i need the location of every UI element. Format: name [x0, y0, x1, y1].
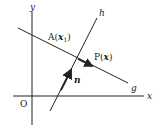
- origin-label: O: [20, 99, 27, 109]
- direction-arrow-icon: [78, 59, 92, 66]
- coordinate-diagram: y x O g h A(x1) P(x) n: [0, 0, 163, 137]
- line-g-label: g: [131, 83, 137, 93]
- point-a-label: A(x1): [47, 32, 71, 43]
- point-p-label: P(x): [94, 52, 112, 62]
- normal-vector-n-label: n: [74, 75, 81, 85]
- x-axis-label: x: [147, 91, 152, 101]
- normal-vector-n-arrow-icon: [61, 70, 71, 90]
- line-h-label: h: [99, 8, 105, 18]
- y-axis-label: y: [29, 2, 36, 12]
